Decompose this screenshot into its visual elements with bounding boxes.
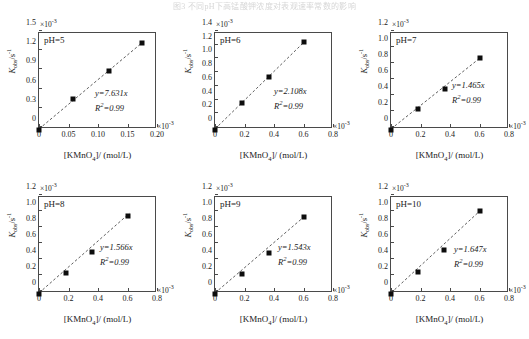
x-tick-mark (274, 124, 275, 127)
x-axis-exponent: ×10-3 (509, 120, 526, 131)
y-tick-mark (215, 226, 218, 227)
x-tick-label: 0.8 (504, 130, 514, 139)
y-tick-label: 0.4 (202, 86, 212, 95)
y-tick-label: 0.6 (202, 230, 212, 239)
regression-line-ph7 (391, 33, 507, 127)
y-tick-label: 1.5 (26, 18, 36, 27)
y-tick-label: 0 (384, 114, 388, 123)
y-tick-label: 0.8 (202, 214, 212, 223)
y-tick-label: 1.0 (378, 34, 388, 43)
ph-label-ph6: pH=6 (220, 35, 241, 45)
ph-label-ph7: pH=7 (396, 35, 417, 45)
ph-label-ph8: pH=8 (44, 199, 65, 209)
r-squared-text: R2=0.99 (95, 99, 127, 114)
x-axis-exponent: ×10-3 (157, 284, 174, 295)
y-tick-mark (215, 71, 218, 72)
x-tick-mark (128, 124, 129, 127)
y-tick-mark (39, 210, 42, 211)
data-point-marker (478, 56, 483, 61)
r-squared-text: R2=0.99 (274, 97, 306, 112)
r-squared-text: R2=0.99 (454, 255, 486, 270)
y-tick-mark (391, 46, 394, 47)
x-tick-label: 0.6 (299, 294, 309, 303)
y-tick-mark (215, 85, 218, 86)
y-tick-label: 0.4 (378, 82, 388, 91)
x-tick-label: 0.8 (328, 294, 338, 303)
data-point-marker (442, 247, 447, 252)
panel-ph7: ×10-3×10-300.20.40.60.81.01.200.20.40.60… (352, 10, 528, 174)
plot-area-ph6: 00.20.40.60.81.01.21.400.20.40.60.8 (214, 32, 332, 128)
equation-text: y=2.108x (274, 86, 306, 96)
y-tick-mark (391, 62, 394, 63)
x-tick-mark (333, 288, 334, 291)
regression-line-ph10 (391, 197, 507, 291)
y-tick-label: 0.8 (26, 214, 36, 223)
data-point-marker (37, 291, 42, 296)
x-tick-label: 0.4 (93, 294, 103, 303)
y-tick-label: 0.6 (26, 230, 36, 239)
x-tick-mark (450, 124, 451, 127)
equation-text: y=1.465x (452, 80, 484, 90)
y-tick-mark (215, 112, 218, 113)
regression-line-ph6 (215, 33, 331, 127)
y-axis-exponent: ×10-3 (216, 18, 233, 29)
y-axis-exponent: ×10-3 (40, 182, 57, 193)
y-tick-label: 1.2 (202, 31, 212, 40)
y-tick-label: 0.6 (202, 72, 212, 81)
y-tick-label: 0.9 (26, 56, 36, 65)
fit-equation-ph10: y=1.647xR2=0.99 (454, 244, 486, 270)
y-tick-mark (391, 30, 394, 31)
x-tick-label: 0.4 (269, 294, 279, 303)
y-axis-exponent: ×10-3 (40, 18, 57, 29)
data-point-marker (442, 86, 447, 91)
x-axis-exponent: ×10-3 (509, 284, 526, 295)
x-tick-label: 0.05 (62, 130, 76, 139)
data-point-marker (106, 68, 111, 73)
x-axis-label: [KMnO4]/ (mol/L) (196, 314, 351, 326)
x-tick-mark (128, 288, 129, 291)
x-tick-mark (304, 288, 305, 291)
x-tick-mark (274, 288, 275, 291)
y-axis-label: Kobs/s-1 (358, 35, 371, 87)
x-tick-mark (304, 124, 305, 127)
y-tick-mark (391, 210, 394, 211)
y-tick-mark (39, 194, 42, 195)
x-tick-mark (509, 288, 510, 291)
fit-equation-ph5: y=7.631xR2=0.99 (95, 88, 127, 114)
y-tick-mark (39, 49, 42, 50)
x-axis-label: [KMnO4]/ (mol/L) (20, 314, 175, 326)
y-tick-mark (215, 258, 218, 259)
fit-equation-ph7: y=1.465xR2=0.99 (452, 80, 484, 106)
y-tick-label: 1.2 (26, 37, 36, 46)
y-tick-mark (215, 57, 218, 58)
x-tick-label: 0.6 (475, 294, 485, 303)
r-squared-text: R2=0.99 (452, 91, 484, 106)
y-tick-mark (39, 68, 42, 69)
x-tick-label: 0.4 (269, 130, 279, 139)
x-tick-mark (245, 288, 246, 291)
y-tick-label: 0 (32, 114, 36, 123)
x-tick-label: 0.8 (504, 294, 514, 303)
fit-equation-ph8: y=1.566xR2=0.99 (100, 242, 132, 268)
y-axis-label: Kobs/s-1 (182, 199, 195, 251)
y-tick-mark (215, 30, 218, 31)
x-tick-mark (98, 124, 99, 127)
data-point-marker (37, 127, 42, 132)
x-axis-label: [KMnO4]/ (mol/L) (372, 314, 527, 326)
figure-multi-panel-kinetics: 图3 不同pH下高锰酸钾浓度对表观速率常数的影响 ×10-3×10-300.30… (0, 0, 529, 339)
data-point-marker (302, 40, 307, 45)
data-point-marker (71, 96, 76, 101)
x-tick-mark (333, 124, 334, 127)
regression-line-ph8 (39, 197, 155, 291)
x-tick-label: 0.6 (123, 294, 133, 303)
y-tick-mark (391, 258, 394, 259)
data-point-marker (478, 209, 483, 214)
y-tick-label: 0.4 (378, 246, 388, 255)
x-tick-label: 0.2 (240, 294, 250, 303)
x-tick-mark (421, 288, 422, 291)
data-point-marker (213, 127, 218, 132)
y-tick-label: 1.2 (378, 18, 388, 27)
x-tick-label: 0.2 (64, 294, 74, 303)
y-tick-label: 0.4 (26, 246, 36, 255)
y-tick-mark (391, 242, 394, 243)
